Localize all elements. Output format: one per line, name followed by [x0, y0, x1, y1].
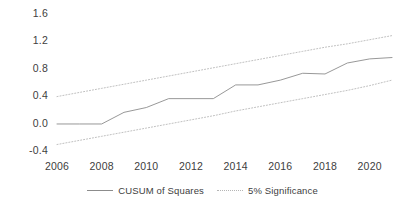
series-group: [57, 36, 392, 145]
legend-item-cusum-of-squares[interactable]: CUSUM of Squares: [87, 185, 204, 196]
legend-item-5pct-significance[interactable]: 5% Significance: [217, 185, 318, 196]
series-line-cusum-of-squares: [57, 58, 392, 124]
legend-label: CUSUM of Squares: [118, 185, 204, 196]
legend-label: 5% Significance: [248, 185, 318, 196]
cusum-of-squares-chart: 1.61.20.80.40.0-0.4 20062008201020122014…: [0, 0, 405, 203]
series-line-5pct-significance-lower: [57, 80, 392, 144]
legend-swatch-solid-line-icon: [87, 187, 113, 194]
chart-legend: CUSUM of Squares5% Significance: [0, 181, 405, 199]
plot-area: [0, 0, 405, 203]
legend-swatch-dotted-line-icon: [217, 187, 243, 194]
